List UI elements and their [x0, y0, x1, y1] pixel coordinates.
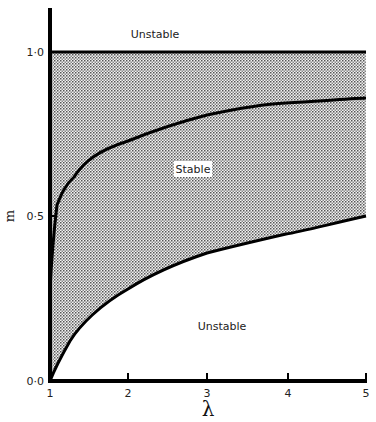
- x-tick-label: 1: [47, 387, 54, 400]
- x-axis-label: λ: [202, 397, 215, 421]
- region-label-top-unstable: Unstable: [131, 28, 180, 41]
- y-tick-label: 0·5: [27, 210, 45, 223]
- stability-chart: 1 2 3 4 5 0·0 0·5 1·0 λ m Unstable Stabl…: [0, 0, 376, 422]
- x-tick-label: 5: [363, 387, 370, 400]
- y-axis-label: m: [2, 210, 17, 222]
- x-tick-label: 2: [125, 387, 132, 400]
- region-label-stable: Stable: [176, 163, 211, 176]
- region-label-bottom-unstable: Unstable: [198, 320, 247, 333]
- y-tick-label: 0·0: [27, 375, 45, 388]
- x-tick-label: 4: [285, 387, 292, 400]
- y-tick-label: 1·0: [27, 46, 45, 59]
